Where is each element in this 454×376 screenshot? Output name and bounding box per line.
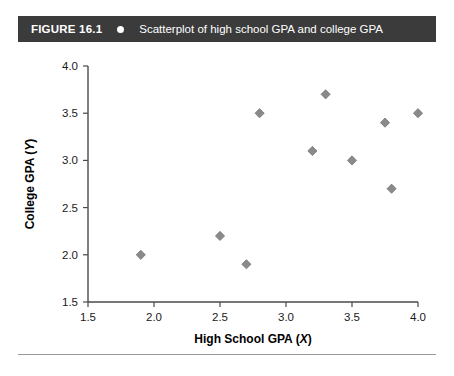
data-point-marker bbox=[380, 118, 389, 127]
y-tick-label: 2.5 bbox=[62, 202, 78, 214]
x-tick-label: 3.0 bbox=[278, 311, 294, 323]
x-tick-label: 2.0 bbox=[146, 311, 162, 323]
y-tick-label: 4.0 bbox=[62, 60, 78, 72]
data-point-marker bbox=[242, 260, 251, 269]
bullet-dot-icon bbox=[117, 26, 124, 33]
y-axis-title: College GPA (Y) bbox=[23, 139, 37, 230]
scatterplot-svg: 1.52.02.53.03.54.0 1.52.02.53.03.54.0 Hi… bbox=[0, 48, 454, 348]
data-point-marker bbox=[308, 146, 317, 155]
figure-root: FIGURE 16.1 Scatterplot of high school G… bbox=[0, 0, 454, 376]
x-axis-title: High School GPA (X) bbox=[194, 332, 311, 346]
data-point-marker bbox=[387, 184, 396, 193]
y-axis-ticks: 1.52.02.53.03.54.0 bbox=[62, 60, 88, 308]
data-point-marker bbox=[255, 109, 264, 118]
data-point-group bbox=[136, 90, 422, 269]
data-point-marker bbox=[215, 231, 224, 240]
x-tick-label: 2.5 bbox=[212, 311, 228, 323]
y-tick-label: 3.5 bbox=[62, 107, 78, 119]
data-point-marker bbox=[321, 90, 330, 99]
bottom-divider bbox=[18, 354, 436, 355]
scatterplot-container: 1.52.02.53.03.54.0 1.52.02.53.03.54.0 Hi… bbox=[0, 48, 454, 348]
figure-number-label: FIGURE 16.1 bbox=[31, 23, 102, 35]
x-axis-ticks: 1.52.02.53.03.54.0 bbox=[80, 302, 426, 323]
x-tick-label: 1.5 bbox=[80, 311, 96, 323]
y-tick-label: 1.5 bbox=[62, 296, 78, 308]
x-tick-label: 3.5 bbox=[344, 311, 360, 323]
x-tick-label: 4.0 bbox=[410, 311, 426, 323]
y-tick-label: 3.0 bbox=[62, 154, 78, 166]
figure-caption-label: Scatterplot of high school GPA and colle… bbox=[139, 23, 383, 35]
data-point-marker bbox=[347, 156, 356, 165]
data-point-marker bbox=[413, 109, 422, 118]
y-tick-label: 2.0 bbox=[62, 249, 78, 261]
data-point-marker bbox=[136, 250, 145, 259]
figure-header-bar: FIGURE 16.1 Scatterplot of high school G… bbox=[18, 16, 436, 42]
